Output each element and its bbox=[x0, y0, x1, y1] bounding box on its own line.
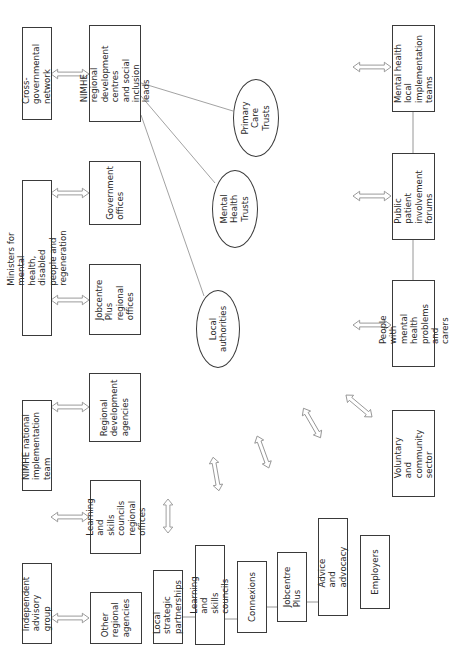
box-label: Voluntary and community sector bbox=[393, 429, 435, 477]
double-arrow-icon bbox=[51, 512, 89, 522]
double-arrow-icon bbox=[353, 191, 391, 201]
ellipse-local-authorities: Local authorities bbox=[196, 290, 240, 368]
box-label: People with mental health problems and c… bbox=[377, 303, 450, 343]
box-people-mental-health: People with mental health problems and c… bbox=[392, 280, 435, 367]
box-jobcentre-plus-regional: Jobcentre Plus regional offices bbox=[89, 264, 141, 335]
box-label: Ministers for mental health, disabled pe… bbox=[6, 230, 68, 285]
box-label: Mental health local implementation teams bbox=[393, 34, 435, 102]
box-nimhe-regional: NIMHE regional development centres and s… bbox=[89, 25, 141, 122]
ellipse-label: Primary Care Trusts bbox=[240, 101, 271, 134]
box-independent-advisory-group: Independent advisory group bbox=[22, 563, 52, 644]
double-arrow-icon bbox=[208, 456, 223, 491]
box-learning-skills-councils: Learning and skills councils bbox=[195, 545, 225, 645]
box-label: Learning and skills councils bbox=[189, 576, 231, 613]
double-arrow-icon bbox=[353, 62, 391, 72]
box-label: Regional development agencies bbox=[99, 379, 130, 436]
double-arrow-icon bbox=[299, 406, 324, 440]
box-label: NIMHE national implementation team bbox=[21, 411, 52, 479]
box-voluntary-community: Voluntary and community sector bbox=[392, 410, 435, 497]
box-government-offices: Government offices bbox=[89, 161, 141, 225]
ellipse-label: Mental Health Trusts bbox=[219, 194, 250, 223]
box-employers: Employers bbox=[360, 535, 390, 609]
box-label: Employers bbox=[370, 549, 380, 594]
box-label: Independent advisory group bbox=[21, 576, 52, 630]
box-public-patient-forums: Public patient involvement forums bbox=[392, 153, 435, 240]
box-mh-local-implementation: Mental health local implementation teams bbox=[392, 25, 435, 112]
box-label: Connexions bbox=[247, 572, 257, 622]
box-label: NIMHE regional development centres and s… bbox=[79, 45, 152, 102]
box-label: Jobcentre Plus regional offices bbox=[94, 279, 136, 320]
ellipse-primary-care-trusts: Primary Care Trusts bbox=[233, 79, 279, 157]
double-arrow-icon bbox=[51, 295, 89, 305]
box-nimhe-national: NIMHE national implementation team bbox=[22, 400, 52, 491]
box-connexions: Connexions bbox=[237, 561, 267, 633]
box-cross-governmental-network: Cross-governmental network bbox=[22, 27, 52, 120]
box-label: Other regional agencies bbox=[100, 599, 131, 637]
double-arrow-icon bbox=[253, 434, 274, 469]
box-label: Learning and skills councils regional of… bbox=[84, 498, 146, 535]
double-arrow-icon bbox=[51, 188, 89, 198]
box-label: Public patient involvement forums bbox=[393, 170, 435, 223]
box-jobcentre-plus: Jobcentre Plus bbox=[277, 552, 307, 622]
box-label: Government offices bbox=[105, 166, 126, 220]
double-arrow-icon bbox=[51, 402, 89, 412]
box-label: Cross-governmental network bbox=[21, 43, 52, 103]
double-arrow-icon bbox=[51, 613, 89, 623]
double-arrow-icon bbox=[343, 391, 375, 420]
double-arrow-icon bbox=[163, 499, 173, 533]
box-other-regional-agencies: Other regional agencies bbox=[90, 592, 142, 644]
box-ministers: Ministers for mental health, disabled pe… bbox=[22, 180, 52, 336]
box-label: Advice and advocacy bbox=[317, 547, 348, 588]
box-advice-advocacy: Advice and advocacy bbox=[318, 518, 348, 616]
box-label: Jobcentre Plus bbox=[282, 567, 303, 608]
box-local-strategic-partnerships: Local strategic partnerships bbox=[153, 570, 183, 644]
box-label: Local strategic partnerships bbox=[152, 580, 183, 634]
ellipse-label: Local authorities bbox=[208, 306, 229, 352]
box-regional-development-agencies: Regional development agencies bbox=[89, 373, 141, 442]
box-lsc-regional: Learning and skills councils regional of… bbox=[90, 480, 141, 554]
ellipse-mental-health-trusts: Mental Health Trusts bbox=[212, 170, 258, 248]
